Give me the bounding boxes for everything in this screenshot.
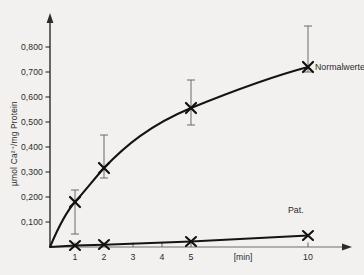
series-label-normalwerte: Normalwerte: [315, 62, 364, 72]
y-tick-label-0-700: 0,700: [21, 67, 43, 77]
x-tick-label-2: 2: [102, 252, 107, 262]
series-label-pat: Pat.: [288, 205, 304, 215]
y-tick-label-0-400: 0,400: [21, 142, 43, 152]
chart-figure: 0,100 0,200 0,300 0,400 0,500 0,600 0,70…: [0, 0, 364, 275]
y-axis-title-text: µmol Ca²⁺/mg Protein: [9, 101, 19, 186]
y-tick-label-0-100: 0,100: [21, 217, 43, 227]
y-tick-label-0-500: 0,500: [21, 117, 43, 127]
x-tick-label-3: 3: [131, 252, 136, 262]
x-tick-label-10: 10: [303, 252, 313, 262]
y-tick-label-0-600: 0,600: [21, 92, 43, 102]
x-tick-label-4: 4: [160, 252, 165, 262]
y-axis-title: µmol Ca²⁺/mg Protein: [9, 101, 19, 186]
y-tick-label-0-300: 0,300: [21, 167, 43, 177]
x-axis-unit-label: [min]: [234, 252, 253, 262]
x-tick-label-1: 1: [73, 252, 78, 262]
y-tick-label-0-800: 0,800: [21, 42, 43, 52]
y-tick-label-0-200: 0,200: [21, 192, 43, 202]
x-tick-label-5: 5: [189, 252, 194, 262]
